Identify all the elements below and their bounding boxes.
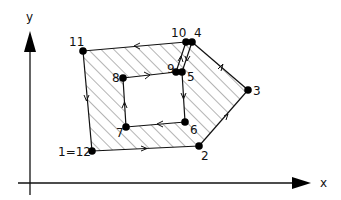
vertex-3: [244, 86, 252, 94]
y-axis-label: y: [26, 10, 33, 24]
label-3: 3: [253, 84, 261, 98]
label-2: 2: [201, 149, 209, 163]
x-axis: [18, 177, 311, 189]
label-5: 5: [187, 70, 195, 84]
vertex-8: [119, 74, 127, 82]
label-11: 11: [69, 35, 84, 49]
label-1: 1=12: [58, 145, 91, 159]
label-6: 6: [190, 123, 198, 137]
hatched-region: [83, 42, 248, 151]
x-axis-label: x: [320, 176, 327, 190]
label-9: 9: [167, 62, 175, 76]
label-4: 4: [194, 26, 202, 40]
y-axis: [24, 31, 36, 195]
label-8: 8: [112, 71, 120, 85]
y-axis-arrow-icon: [24, 31, 36, 52]
polygon-diagram: y x: [0, 0, 341, 200]
vertex-6: [181, 118, 189, 126]
label-10: 10: [171, 26, 186, 40]
x-axis-arrow-icon: [292, 177, 311, 189]
label-7: 7: [116, 126, 124, 140]
